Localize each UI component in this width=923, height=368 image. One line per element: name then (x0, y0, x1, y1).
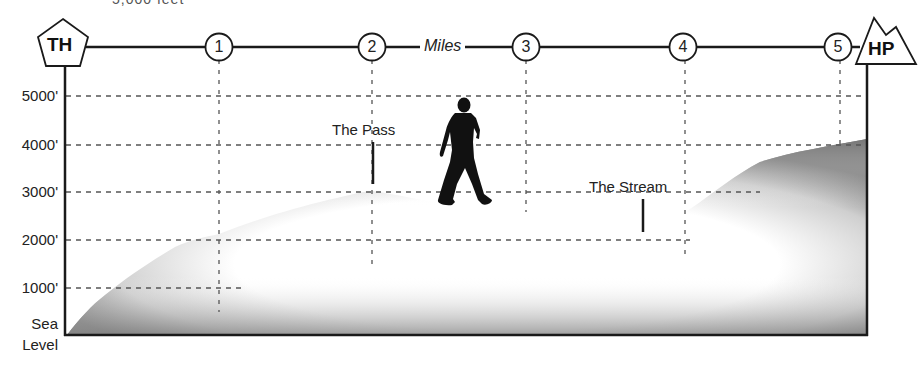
elevation-label-1000: 1000' (2, 279, 58, 296)
mile-marker-3: 3 (514, 38, 538, 56)
mile-marker-5: 5 (826, 38, 850, 56)
elevation-label-3000: 3000' (2, 183, 58, 200)
profile-svg (0, 0, 923, 368)
the-pass-label: The Pass (332, 121, 395, 138)
mile-marker-4: 4 (671, 38, 695, 56)
hiker-silhouette-icon (438, 98, 492, 206)
high-point-label: HP (868, 38, 894, 60)
mile-marker-2: 2 (360, 38, 384, 56)
mile-marker-1: 1 (207, 38, 231, 56)
elevation-label-4000: 4000' (2, 136, 58, 153)
elevation-label-5000: 5000' (2, 87, 58, 104)
miles-axis-label: Miles (420, 37, 465, 55)
trailhead-label: TH (47, 34, 72, 56)
the-stream-label: The Stream (589, 178, 667, 195)
elevation-label-2000: 2000' (2, 231, 58, 248)
sea-level-label-line2: Level (2, 336, 58, 353)
sea-level-label-line1: Sea (2, 315, 58, 332)
elevation-profile-diagram: 5,000 feet (0, 0, 923, 368)
